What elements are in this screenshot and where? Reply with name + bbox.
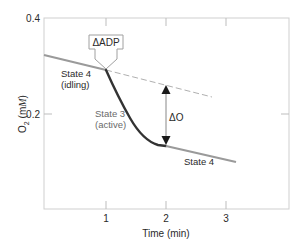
y-title-unit-open: (m bbox=[17, 107, 28, 121]
delta-o-arrow: ΔO bbox=[162, 85, 184, 145]
x-tick-label-2: 2 bbox=[163, 213, 169, 224]
delta-o-label: ΔO bbox=[169, 112, 184, 123]
arrow-down-icon bbox=[162, 136, 171, 145]
state4-idle-label: State 4 bbox=[61, 68, 91, 79]
series-state4-extrapolation bbox=[106, 70, 212, 97]
state4-end-label: State 4 bbox=[184, 156, 214, 167]
x-tick-label-1: 1 bbox=[103, 213, 109, 224]
x-tick-label-3: 3 bbox=[223, 213, 229, 224]
y-tick-label-0.2: 0.2 bbox=[26, 109, 40, 120]
adp-arrow-callout: ΔADP bbox=[89, 35, 123, 69]
adp-label: ΔADP bbox=[92, 37, 120, 48]
chart-canvas: 0.4 0.2 1 2 3 Time (min) O2 (mM) ΔADP ΔO… bbox=[0, 0, 301, 244]
active-label: (active) bbox=[95, 119, 126, 130]
idling-label: (idling) bbox=[61, 79, 90, 90]
y-tick-label-0.4: 0.4 bbox=[26, 13, 40, 24]
y-title-unit-close: ) bbox=[17, 95, 28, 98]
x-axis-title: Time (min) bbox=[142, 228, 189, 239]
state3-label: State 3 bbox=[95, 108, 125, 119]
